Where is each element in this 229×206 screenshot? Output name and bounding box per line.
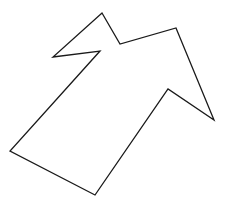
diagram-canvas [0,0,229,206]
arrow-polygon-outline [10,13,214,195]
polygon-figure [0,0,229,206]
